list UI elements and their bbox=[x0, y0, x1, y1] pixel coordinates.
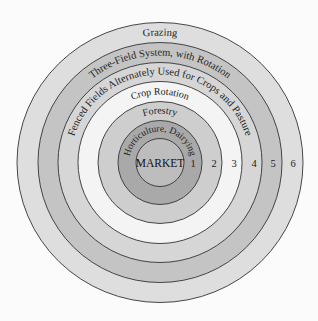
zone-2-number: 2 bbox=[211, 158, 216, 169]
zone-4-number: 4 bbox=[251, 158, 257, 169]
zone-5-number: 5 bbox=[270, 158, 275, 169]
market-label: MARKET bbox=[136, 157, 185, 169]
zone-6-label: Grazing bbox=[142, 27, 178, 39]
zone-3-number: 3 bbox=[231, 158, 236, 169]
concentric-zones-diagram: Grazing Three-Field System, with Rotatio… bbox=[0, 0, 318, 321]
zone-1-number: 1 bbox=[190, 158, 195, 169]
zone-6-number: 6 bbox=[290, 158, 295, 169]
